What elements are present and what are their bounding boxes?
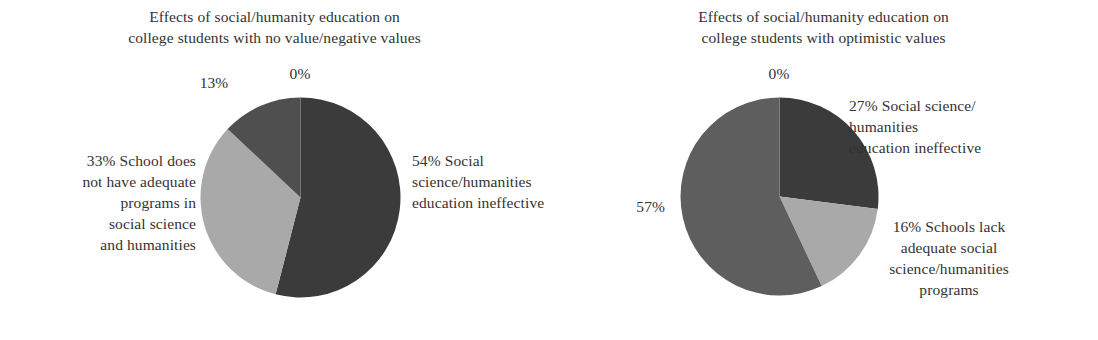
pie-label-right-16pct: 16% Schools lack adequate social science… (849, 216, 1049, 300)
chart-title-right: Effects of social/humanity education on … (549, 6, 1098, 48)
pie-svg-left (200, 97, 401, 298)
chart-title-left: Effects of social/humanity education on … (0, 6, 549, 48)
pie-label-left-54pct: 54% Social science/humanities education … (412, 150, 562, 213)
pie-chart-left (200, 97, 401, 298)
pie-label-right-0pct: 0% (737, 63, 821, 84)
pie-chart-figure-right: Effects of social/humanity education on … (549, 0, 1098, 340)
pie-chart-figure-left: Effects of social/humanity education on … (0, 0, 549, 340)
pie-label-left-13pct: 13% (172, 72, 256, 93)
pie-label-left-0pct: 0% (258, 63, 342, 84)
pie-label-right-27pct: 27% Social science/ humanities education… (849, 95, 1064, 158)
pie-label-right-57pct: 57% (605, 196, 665, 217)
pie-label-left-33pct: 33% School does not have adequate progra… (14, 150, 196, 255)
